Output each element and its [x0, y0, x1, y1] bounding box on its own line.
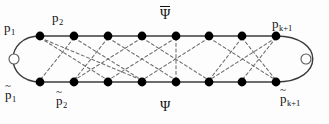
graph-node-top	[205, 32, 214, 41]
graph-node-bottom	[172, 78, 181, 87]
label-p2-tilde: ~p2	[56, 94, 67, 107]
dashed-cross-edge	[209, 38, 242, 80]
label-pk1-tilde: ~pk+1	[280, 92, 300, 105]
label-p1-tilde: ~p1	[5, 88, 16, 101]
label-pk1-subscript: k+1	[279, 23, 292, 33]
endpoint-open-circle	[9, 54, 19, 64]
label-pk1-base: p	[272, 16, 279, 31]
label-psi-glyph: Ψ	[160, 99, 170, 114]
label-p1-tilde-subscript: 1	[12, 94, 16, 104]
graph-node-top	[238, 32, 247, 41]
dashed-cross-edge	[74, 38, 108, 80]
graph-node-bottom	[138, 78, 147, 87]
dashed-cross-edge	[40, 38, 74, 80]
tilde-mark: ~	[280, 84, 285, 95]
graph-node-top	[36, 32, 45, 41]
graph-node-bottom	[205, 78, 214, 87]
tilde-mark: ~	[5, 80, 10, 91]
label-psi-bar: Ψ	[160, 7, 170, 22]
solid-edge-group	[40, 36, 276, 82]
node-group	[36, 32, 281, 87]
p1-tilde-wrap: ~p	[5, 88, 12, 101]
graph-node-top	[104, 32, 113, 41]
label-psi: Ψ	[160, 100, 170, 114]
label-pk1-tilde-subscript: k+1	[287, 98, 300, 108]
graph-node-top	[70, 32, 79, 41]
psi-bar-wrap: Ψ	[160, 7, 170, 22]
graph-node-bottom	[70, 78, 79, 87]
label-psi-bar-glyph: Ψ	[160, 7, 170, 22]
label-p2-tilde-subscript: 2	[63, 100, 67, 110]
graph-node-top	[138, 32, 147, 41]
dashed-cross-edge	[40, 38, 142, 80]
graph-node-bottom	[104, 78, 113, 87]
label-p1: p1	[4, 21, 15, 34]
graph-node-bottom	[238, 78, 247, 87]
label-p2-base: p	[52, 10, 59, 25]
graph-figure: p1 p2 pk+1 Ψ ~p1 ~p2 ~pk+1 Ψ	[0, 0, 329, 124]
p2-tilde-wrap: ~p	[56, 94, 63, 107]
dashed-edge-group	[40, 38, 276, 80]
label-p1-subscript: 1	[11, 27, 15, 37]
label-p2-subscript: 2	[59, 17, 63, 27]
tilde-mark: ~	[56, 86, 61, 97]
endpoint-open-circle	[301, 54, 311, 64]
graph-node-top	[172, 32, 181, 41]
endpoint-circle-group	[9, 54, 311, 64]
label-pk1: pk+1	[272, 17, 292, 30]
label-p1-base: p	[4, 20, 11, 35]
pk1-tilde-wrap: ~p	[280, 92, 287, 105]
label-p2: p2	[52, 11, 63, 24]
graph-node-bottom	[36, 78, 45, 87]
dashed-cross-edge	[40, 38, 108, 80]
overline-mark	[160, 6, 170, 7]
